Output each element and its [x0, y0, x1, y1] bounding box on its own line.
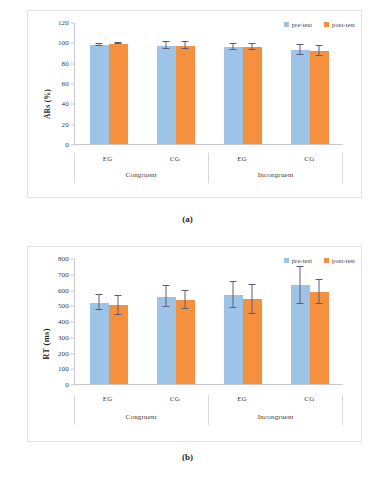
- x-label-cg-incongruent-a: CG: [276, 155, 343, 167]
- error-bar-cap-top: [115, 295, 122, 296]
- error-bar-line: [319, 280, 320, 303]
- error-bar-cap-top: [316, 45, 323, 46]
- error-bar-line: [233, 282, 234, 308]
- bar-post-test-EG-b-2[interactable]: [243, 259, 262, 384]
- x-axis-group-labels-b: EG CG EG CG: [74, 395, 343, 407]
- figure-container: ARs (%) pre-test post-test 0204060801001…: [0, 0, 375, 477]
- bar-rect: [176, 300, 195, 384]
- y-tick-mark-60-a: [71, 84, 74, 85]
- error-bar-cap-top: [249, 43, 256, 44]
- x-axis-line-a: [74, 144, 343, 145]
- y-tick-mark-700-b: [71, 274, 74, 275]
- y-tick-mark-20-a: [71, 124, 74, 125]
- error-bar-cap-bottom: [182, 308, 189, 309]
- bar-pre-test-EG-b-0[interactable]: [90, 259, 109, 384]
- error-bar-cap-top: [230, 43, 237, 44]
- bar-pre-test-EG-b-2[interactable]: [224, 259, 243, 384]
- error-bar-line: [118, 296, 119, 315]
- bar-pre-test-CG-b-3[interactable]: [291, 259, 310, 384]
- error-bar-cap-bottom: [96, 309, 103, 310]
- x-label-cg-incongruent-b: CG: [276, 395, 343, 407]
- x-label-eg-congruent-b: EG: [74, 395, 141, 407]
- bar-rect: [90, 45, 109, 144]
- x-condition-congruent-b: Congruent: [74, 411, 209, 427]
- error-bar-cap-top: [163, 41, 170, 42]
- bar-rect: [157, 297, 176, 384]
- error-bar-cap-bottom: [316, 55, 323, 56]
- bar-pre-test-EG-a-0[interactable]: [90, 23, 109, 144]
- x-axis-line-b: [74, 384, 343, 385]
- error-bar-line: [300, 267, 301, 304]
- y-tick-mark-300-b: [71, 337, 74, 338]
- error-bar-cap-bottom: [163, 48, 170, 49]
- bar-post-test-CG-b-1[interactable]: [176, 259, 195, 384]
- bar-cluster-b-1: [142, 259, 209, 384]
- x-axis-condition-labels-b: Congruent Incongruent: [74, 411, 343, 427]
- x-condition-congruent-text-a: Congruent: [126, 171, 157, 179]
- x-separator-right-b: [342, 395, 343, 425]
- bar-cluster-a-0: [75, 23, 142, 144]
- y-tick-mark-600-b: [71, 290, 74, 291]
- panel-caption-a: (a): [0, 214, 375, 224]
- y-tick-mark-400-b: [71, 322, 74, 323]
- x-separator-left-b: [74, 395, 75, 425]
- error-bar-cap-top: [182, 290, 189, 291]
- bar-rect: [224, 47, 243, 144]
- bar-rect: [310, 51, 329, 144]
- error-bar-cap-top: [96, 43, 103, 44]
- x-condition-congruent-text-b: Congruent: [126, 413, 157, 421]
- bar-rect: [157, 46, 176, 144]
- y-tick-mark-800-b: [71, 259, 74, 260]
- x-label-eg-incongruent-a: EG: [209, 155, 276, 167]
- y-tick-mark-0-b: [71, 385, 74, 386]
- bar-rect: [176, 46, 195, 144]
- error-bar-cap-bottom: [230, 49, 237, 50]
- bar-post-test-CG-a-3[interactable]: [310, 23, 329, 144]
- x-label-eg-congruent-a: EG: [74, 155, 141, 167]
- bar-post-test-EG-a-2[interactable]: [243, 23, 262, 144]
- bar-post-test-CG-b-3[interactable]: [310, 259, 329, 384]
- bar-cluster-a-3: [276, 23, 343, 144]
- y-tick-mark-0-a: [71, 145, 74, 146]
- plot-area-a: 020406080100120: [74, 23, 343, 145]
- bar-post-test-EG-a-0[interactable]: [109, 23, 128, 144]
- error-bar-cap-top: [182, 41, 189, 42]
- x-label-cg-congruent-a: CG: [141, 155, 208, 167]
- error-bar-cap-top: [297, 44, 304, 45]
- error-bar-line: [99, 295, 100, 310]
- bar-pre-test-CG-b-1[interactable]: [157, 259, 176, 384]
- y-tick-mark-200-b: [71, 353, 74, 354]
- error-bar-line: [252, 285, 253, 314]
- x-condition-congruent-a: Congruent: [74, 169, 209, 185]
- bar-pre-test-EG-a-2[interactable]: [224, 23, 243, 144]
- bar-pre-test-CG-a-1[interactable]: [157, 23, 176, 144]
- error-bar-cap-bottom: [316, 303, 323, 304]
- x-separator-left-a: [74, 153, 75, 183]
- error-bar-cap-bottom: [230, 307, 237, 308]
- bar-post-test-CG-a-1[interactable]: [176, 23, 195, 144]
- bar-cluster-a-2: [209, 23, 276, 144]
- error-bar-line: [166, 286, 167, 307]
- x-axis-condition-labels-a: Congruent Incongruent: [74, 169, 343, 185]
- error-bar-cap-bottom: [182, 48, 189, 49]
- plot-frame-a: ARs (%) pre-test post-test 0204060801001…: [27, 10, 362, 198]
- y-tick-mark-100-a: [71, 43, 74, 44]
- bar-post-test-EG-b-0[interactable]: [109, 259, 128, 384]
- y-tick-mark-100-b: [71, 369, 74, 370]
- error-bar-cap-top: [230, 281, 237, 282]
- chart-panel-b: RT (ms) pre-test post-test 0100200300400…: [0, 238, 375, 477]
- bar-rect: [310, 292, 329, 384]
- error-bar-cap-bottom: [96, 45, 103, 46]
- bar-cluster-b-3: [276, 259, 343, 384]
- bar-pre-test-CG-a-3[interactable]: [291, 23, 310, 144]
- error-bar-cap-top: [316, 279, 323, 280]
- x-separator-right-a: [342, 153, 343, 183]
- error-bar-cap-top: [249, 284, 256, 285]
- bar-rect: [109, 305, 128, 384]
- error-bar-cap-bottom: [115, 43, 122, 44]
- x-label-cg-congruent-b: CG: [141, 395, 208, 407]
- y-axis-label-a: ARs (%): [43, 89, 52, 119]
- x-condition-incongruent-text-b: Incongruent: [258, 413, 294, 421]
- error-bar-cap-bottom: [249, 313, 256, 314]
- y-axis-label-b: RT (ms): [41, 328, 51, 360]
